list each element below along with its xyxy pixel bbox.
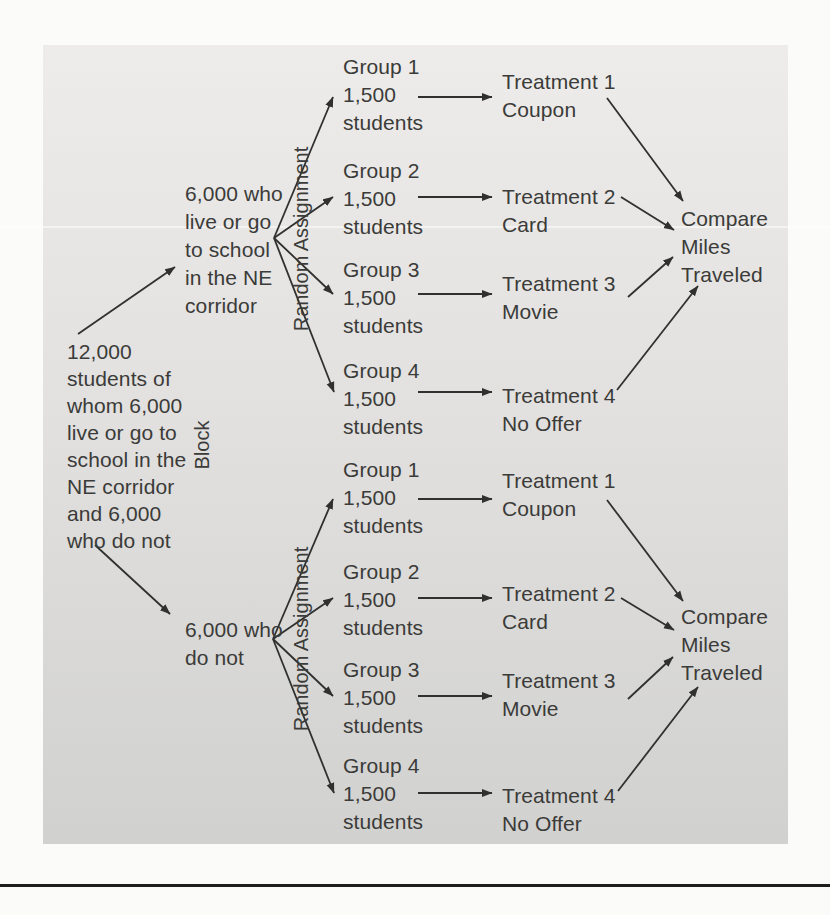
block1-treatment1-label: Treatment 1 Coupon bbox=[502, 68, 616, 124]
block1-outcome-label: Compare Miles Traveled bbox=[681, 205, 768, 289]
block1-group4-label: Group 4 1,500 students bbox=[343, 357, 423, 441]
block2-random-assignment-label: Random Assignment bbox=[290, 547, 313, 732]
arrow-population-to-block-1 bbox=[78, 267, 175, 334]
arrow-b1-treatment1-to-compare bbox=[607, 98, 683, 201]
block1-treatment4-label: Treatment 4 No Offer bbox=[502, 382, 616, 438]
block2-treatment2-label: Treatment 2 Card bbox=[502, 580, 616, 636]
page-divider-rule bbox=[0, 884, 830, 887]
arrow-b1-treatment3-to-compare bbox=[628, 257, 673, 297]
arrow-population-to-block-2 bbox=[95, 545, 170, 614]
arrow-b2-treatment3-to-compare bbox=[628, 657, 673, 699]
block1-group3-label: Group 3 1,500 students bbox=[343, 256, 423, 340]
arrow-b2-treatment4-to-compare bbox=[618, 687, 698, 791]
block1-group2-label: Group 2 1,500 students bbox=[343, 157, 423, 241]
block1-label: 6,000 who live or go to school in the NE… bbox=[185, 180, 283, 320]
block1-treatment2-label: Treatment 2 Card bbox=[502, 183, 616, 239]
arrow-b1-treatment2-to-compare bbox=[621, 197, 674, 230]
block2-treatment3-label: Treatment 3 Movie bbox=[502, 667, 616, 723]
block2-group1-label: Group 1 1,500 students bbox=[343, 456, 423, 540]
block2-group3-label: Group 3 1,500 students bbox=[343, 656, 423, 740]
block1-treatment3-label: Treatment 3 Movie bbox=[502, 270, 616, 326]
block2-group4-label: Group 4 1,500 students bbox=[343, 752, 423, 836]
arrow-b2-treatment2-to-compare bbox=[621, 598, 674, 630]
block2-label: 6,000 who do not bbox=[185, 616, 283, 672]
block2-treatment4-label: Treatment 4 No Offer bbox=[502, 782, 616, 838]
population-label: 12,000 students of whom 6,000 live or go… bbox=[67, 338, 186, 554]
block2-outcome-label: Compare Miles Traveled bbox=[681, 603, 768, 687]
arrow-b1-treatment4-to-compare bbox=[617, 286, 698, 390]
arrow-b2-treatment1-to-compare bbox=[607, 500, 683, 601]
block1-group1-label: Group 1 1,500 students bbox=[343, 53, 423, 137]
block2-treatment1-label: Treatment 1 Coupon bbox=[502, 467, 616, 523]
block2-group2-label: Group 2 1,500 students bbox=[343, 558, 423, 642]
block-axis-label: Block bbox=[191, 421, 214, 470]
block1-random-assignment-label: Random Assignment bbox=[290, 147, 313, 332]
